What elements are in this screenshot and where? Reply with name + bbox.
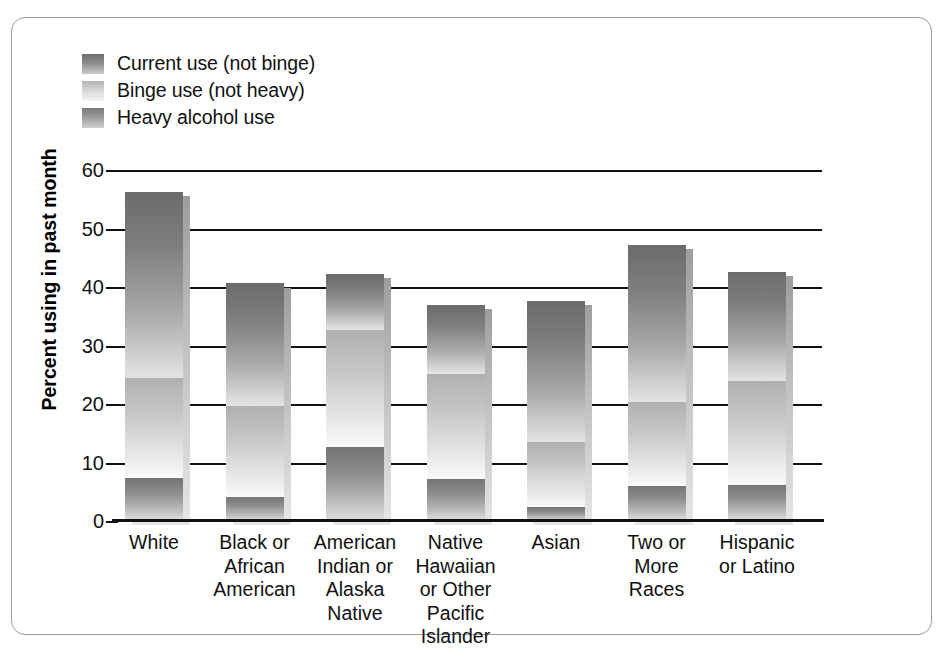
y-tick-label-20: 20 <box>82 393 104 416</box>
bar-segment-binge[interactable] <box>326 330 384 447</box>
x-axis-label-line: Black or <box>203 531 307 555</box>
y-tick-60 <box>106 170 118 172</box>
bar-segment-current[interactable] <box>427 305 485 375</box>
y-tick-40 <box>106 287 118 289</box>
legend-label-binge-use: Binge use (not heavy) <box>117 79 305 102</box>
x-axis-label-line: Hawaiian <box>404 555 508 579</box>
x-axis-label-line: White <box>102 531 206 555</box>
x-axis-label-line: or Other <box>404 578 508 602</box>
x-axis-label: White <box>102 531 206 555</box>
bar-segment-heavy[interactable] <box>326 447 384 521</box>
x-axis-label-line: Hispanic <box>705 531 809 555</box>
y-tick-label-60: 60 <box>82 159 104 182</box>
bar-group[interactable] <box>527 170 585 521</box>
bar-segment-binge[interactable] <box>125 378 183 479</box>
x-axis-label-line: Native <box>303 602 407 626</box>
bar-group[interactable] <box>427 170 485 521</box>
bar-segment-heavy[interactable] <box>226 497 284 521</box>
bar-segment-heavy[interactable] <box>427 479 485 521</box>
bar-group[interactable] <box>628 170 686 521</box>
x-axis-label-line: Indian or <box>303 555 407 579</box>
x-axis-label-line: Races <box>605 578 709 602</box>
bar-segment-heavy[interactable] <box>125 478 183 521</box>
plot-area <box>117 170 822 521</box>
x-axis-line <box>112 519 824 522</box>
heavy-use-swatch <box>82 108 104 128</box>
bar-segment-binge[interactable] <box>628 402 686 486</box>
bar-segment-binge[interactable] <box>728 381 786 485</box>
bar-group[interactable] <box>326 170 384 521</box>
x-axis-tick-labels: WhiteBlack orAfricanAmericanAmericanIndi… <box>117 531 822 651</box>
x-axis-label: NativeHawaiianor OtherPacificIslander <box>404 531 508 649</box>
x-axis-label-line: Pacific <box>404 602 508 626</box>
x-axis-label-line: Native <box>404 531 508 555</box>
x-axis-label-line: Asian <box>504 531 608 555</box>
legend-label-current-use: Current use (not binge) <box>117 52 315 75</box>
y-axis-title: Percent using in past month <box>38 161 61 411</box>
bar-group[interactable] <box>226 170 284 521</box>
y-tick-label-10: 10 <box>82 451 104 474</box>
x-axis-label: AmericanIndian orAlaskaNative <box>303 531 407 625</box>
legend-item-current-use: Current use (not binge) <box>82 50 422 77</box>
bar-stack <box>427 170 485 521</box>
y-tick-10 <box>106 463 118 465</box>
bar-segment-current[interactable] <box>728 272 786 381</box>
x-axis-label-line: Two or <box>605 531 709 555</box>
bar-stack <box>527 170 585 521</box>
x-axis-label: Black orAfricanAmerican <box>203 531 307 602</box>
bar-segment-binge[interactable] <box>527 442 585 507</box>
x-axis-label-line: American <box>203 578 307 602</box>
y-tick-label-40: 40 <box>82 276 104 299</box>
legend-item-heavy-use: Heavy alcohol use <box>82 104 422 131</box>
y-tick-50 <box>106 229 118 231</box>
bar-stack <box>125 170 183 521</box>
x-axis-label-line: African <box>203 555 307 579</box>
bar-segment-binge[interactable] <box>226 406 284 497</box>
current-use-swatch <box>82 54 104 74</box>
x-axis-label: Two orMoreRaces <box>605 531 709 602</box>
bar-stack <box>326 170 384 521</box>
bar-segment-current[interactable] <box>226 283 284 405</box>
bar-group[interactable] <box>125 170 183 521</box>
y-tick-20 <box>106 404 118 406</box>
bar-group[interactable] <box>728 170 786 521</box>
chart-legend: Current use (not binge) Binge use (not h… <box>82 50 422 131</box>
bar-stack <box>226 170 284 521</box>
x-axis-label-line: or Latino <box>705 555 809 579</box>
chart-frame: Current use (not binge) Binge use (not h… <box>11 17 932 635</box>
bar-segment-current[interactable] <box>527 301 585 442</box>
bar-segment-binge[interactable] <box>427 374 485 479</box>
bar-segment-current[interactable] <box>125 192 183 378</box>
bar-segment-current[interactable] <box>628 245 686 402</box>
x-axis-label-line: Islander <box>404 625 508 649</box>
y-tick-30 <box>106 346 118 348</box>
x-axis-label: Hispanicor Latino <box>705 531 809 578</box>
y-tick-label-50: 50 <box>82 217 104 240</box>
y-tick-label-0: 0 <box>93 510 104 533</box>
binge-use-swatch <box>82 81 104 101</box>
bar-segment-current[interactable] <box>326 274 384 330</box>
bar-segment-heavy[interactable] <box>628 486 686 521</box>
bar-stack <box>728 170 786 521</box>
bar-segment-heavy[interactable] <box>728 485 786 521</box>
x-axis-label-line: More <box>605 555 709 579</box>
x-axis-label-line: Alaska <box>303 578 407 602</box>
y-axis-tick-labels: 6050403020100 <box>64 170 104 521</box>
legend-item-binge-use: Binge use (not heavy) <box>82 77 422 104</box>
x-axis-label-line: American <box>303 531 407 555</box>
y-tick-label-30: 30 <box>82 334 104 357</box>
legend-label-heavy-use: Heavy alcohol use <box>117 106 275 129</box>
x-axis-label: Asian <box>504 531 608 555</box>
bar-stack <box>628 170 686 521</box>
